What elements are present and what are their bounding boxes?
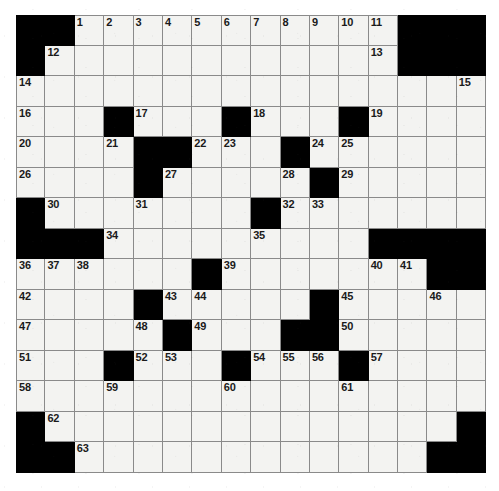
grid-cell[interactable] (75, 412, 104, 443)
grid-cell-numbered[interactable]: 60 (222, 381, 251, 412)
grid-cell[interactable] (398, 320, 427, 351)
grid-cell[interactable] (75, 137, 104, 168)
grid-cell[interactable] (192, 46, 221, 77)
grid-cell[interactable] (427, 76, 456, 107)
grid-cell-numbered[interactable]: 12 (45, 46, 74, 77)
grid-cell[interactable] (281, 46, 310, 77)
grid-cell[interactable] (134, 259, 163, 290)
grid-cell[interactable] (75, 198, 104, 229)
grid-cell[interactable] (104, 259, 133, 290)
grid-cell[interactable] (398, 290, 427, 321)
grid-cell[interactable] (339, 229, 368, 260)
grid-cell[interactable] (310, 229, 339, 260)
grid-cell-numbered[interactable]: 41 (398, 259, 427, 290)
grid-cell[interactable] (457, 381, 486, 412)
grid-cell-numbered[interactable]: 56 (310, 351, 339, 382)
grid-cell[interactable] (75, 290, 104, 321)
grid-cell[interactable] (75, 76, 104, 107)
grid-cell[interactable] (104, 412, 133, 443)
grid-cell[interactable] (75, 320, 104, 351)
grid-cell-numbered[interactable]: 62 (45, 412, 74, 443)
grid-cell[interactable] (251, 168, 280, 199)
grid-cell[interactable] (104, 76, 133, 107)
grid-cell[interactable] (339, 259, 368, 290)
grid-cell-numbered[interactable]: 55 (281, 351, 310, 382)
grid-cell[interactable] (369, 137, 398, 168)
grid-cell-numbered[interactable]: 21 (104, 137, 133, 168)
grid-cell[interactable] (134, 46, 163, 77)
grid-cell[interactable] (45, 351, 74, 382)
grid-cell-numbered[interactable]: 25 (339, 137, 368, 168)
grid-cell-numbered[interactable]: 28 (281, 168, 310, 199)
grid-cell[interactable] (457, 168, 486, 199)
crossword-grid[interactable]: 1234567891011121314151617181920212223242… (16, 15, 486, 473)
grid-cell[interactable] (45, 137, 74, 168)
grid-cell[interactable] (192, 412, 221, 443)
grid-cell-numbered[interactable]: 8 (281, 15, 310, 46)
grid-cell[interactable] (45, 107, 74, 138)
grid-cell[interactable] (457, 351, 486, 382)
grid-cell-numbered[interactable]: 26 (16, 168, 45, 199)
grid-cell[interactable] (45, 381, 74, 412)
grid-cell[interactable] (134, 381, 163, 412)
grid-cell[interactable] (192, 381, 221, 412)
grid-cell[interactable] (75, 46, 104, 77)
grid-cell[interactable] (192, 442, 221, 473)
grid-cell-numbered[interactable]: 47 (16, 320, 45, 351)
grid-cell[interactable] (281, 107, 310, 138)
grid-cell-numbered[interactable]: 29 (339, 168, 368, 199)
grid-cell[interactable] (281, 76, 310, 107)
grid-cell[interactable] (134, 229, 163, 260)
grid-cell[interactable] (104, 198, 133, 229)
grid-cell-numbered[interactable]: 11 (369, 15, 398, 46)
grid-cell-numbered[interactable]: 24 (310, 137, 339, 168)
grid-cell[interactable] (45, 76, 74, 107)
grid-cell-numbered[interactable]: 16 (16, 107, 45, 138)
grid-cell[interactable] (222, 442, 251, 473)
grid-cell[interactable] (427, 351, 456, 382)
grid-cell-numbered[interactable]: 36 (16, 259, 45, 290)
grid-cell-numbered[interactable]: 2 (104, 15, 133, 46)
grid-cell-numbered[interactable]: 37 (45, 259, 74, 290)
grid-cell[interactable] (163, 198, 192, 229)
grid-cell-numbered[interactable]: 9 (310, 15, 339, 46)
grid-cell-numbered[interactable]: 39 (222, 259, 251, 290)
grid-cell-numbered[interactable]: 45 (339, 290, 368, 321)
grid-cell-numbered[interactable]: 59 (104, 381, 133, 412)
grid-cell[interactable] (398, 412, 427, 443)
grid-cell[interactable] (398, 76, 427, 107)
grid-cell[interactable] (281, 259, 310, 290)
grid-cell-numbered[interactable]: 13 (369, 46, 398, 77)
grid-cell[interactable] (192, 76, 221, 107)
grid-cell-numbered[interactable]: 33 (310, 198, 339, 229)
grid-cell[interactable] (369, 442, 398, 473)
grid-cell[interactable] (398, 107, 427, 138)
grid-cell-numbered[interactable]: 4 (163, 15, 192, 46)
grid-cell-numbered[interactable]: 22 (192, 137, 221, 168)
grid-cell-numbered[interactable]: 48 (134, 320, 163, 351)
grid-cell[interactable] (398, 351, 427, 382)
grid-cell-numbered[interactable]: 18 (251, 107, 280, 138)
grid-cell[interactable] (281, 412, 310, 443)
grid-cell[interactable] (310, 76, 339, 107)
grid-cell[interactable] (310, 412, 339, 443)
grid-cell-numbered[interactable]: 17 (134, 107, 163, 138)
grid-cell[interactable] (104, 320, 133, 351)
grid-cell-numbered[interactable]: 57 (369, 351, 398, 382)
grid-cell[interactable] (339, 46, 368, 77)
grid-cell[interactable] (75, 381, 104, 412)
grid-cell[interactable] (222, 412, 251, 443)
grid-cell[interactable] (369, 168, 398, 199)
grid-cell[interactable] (104, 46, 133, 77)
grid-cell[interactable] (192, 107, 221, 138)
grid-cell-numbered[interactable]: 46 (427, 290, 456, 321)
grid-cell-numbered[interactable]: 1 (75, 15, 104, 46)
grid-cell[interactable] (427, 137, 456, 168)
grid-cell-numbered[interactable]: 6 (222, 15, 251, 46)
grid-cell-numbered[interactable]: 35 (251, 229, 280, 260)
grid-cell[interactable] (75, 168, 104, 199)
grid-cell-numbered[interactable]: 40 (369, 259, 398, 290)
grid-cell-numbered[interactable]: 43 (163, 290, 192, 321)
grid-cell-numbered[interactable]: 38 (75, 259, 104, 290)
grid-cell-numbered[interactable]: 42 (16, 290, 45, 321)
